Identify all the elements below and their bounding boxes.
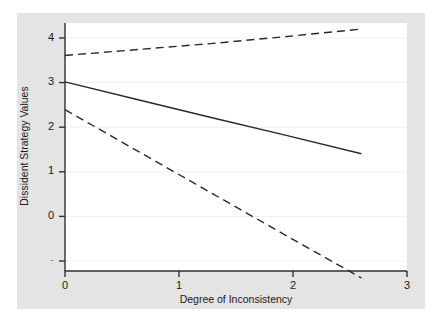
x-tick-label-0: 0	[52, 279, 78, 291]
axis-lines	[65, 23, 407, 271]
y-tick-label-0: 0	[28, 209, 54, 221]
y-axis-title: Dissident Strategy Values	[18, 66, 30, 226]
y-tick-label-2: 2	[28, 120, 54, 132]
y-tick-label-1: 1	[28, 164, 54, 176]
series-group	[65, 29, 361, 278]
y-tick-label-3: 3	[28, 75, 54, 87]
y-tick-label-4: 4	[28, 31, 54, 43]
series-line-0	[65, 29, 361, 55]
x-axis-title: Degree of Inconsistency	[65, 293, 407, 305]
y-tick-label-neg1: -	[28, 253, 54, 265]
series-line-2	[65, 110, 361, 278]
gridlines	[65, 38, 407, 261]
y-tick-marks	[59, 38, 65, 261]
x-tick-marks	[65, 271, 407, 277]
x-tick-label-1: 1	[166, 279, 192, 291]
chart-figure: 4 3 2 1 0 - 0 1 2 3 Degree of Inconsiste…	[0, 0, 441, 329]
x-tick-label-3: 3	[394, 279, 420, 291]
x-tick-label-2: 2	[280, 279, 306, 291]
series-line-1	[65, 82, 361, 154]
